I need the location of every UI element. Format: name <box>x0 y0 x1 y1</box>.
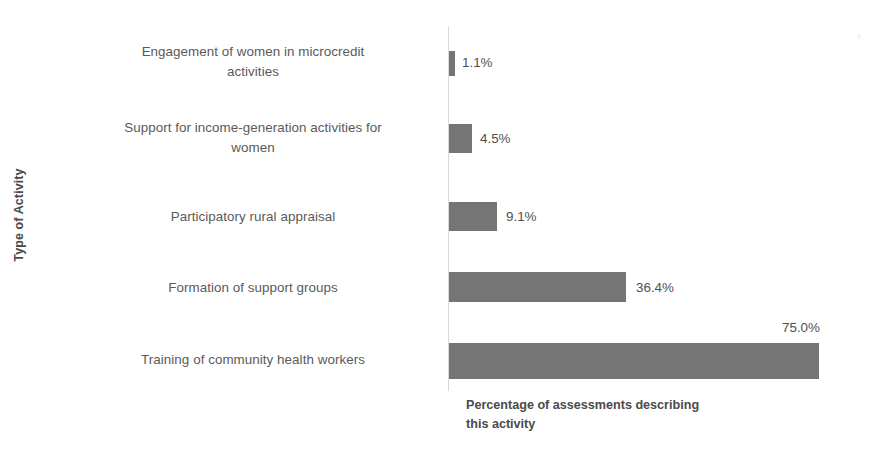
bar-value-label: 1.1% <box>462 55 493 71</box>
bar-value-label: 9.1% <box>506 209 537 225</box>
category-label-line1: Training of community health workers <box>58 350 448 370</box>
category-label-line1: Support for income-generation activities… <box>58 118 448 138</box>
category-label-line1: Formation of support groups <box>58 278 448 298</box>
bar-segment <box>449 272 626 302</box>
category-label: Support for income-generation activities… <box>58 118 448 158</box>
category-label-line2: activities <box>58 62 448 82</box>
category-label: Engagement of women in microcredit activ… <box>58 42 448 82</box>
category-label: Formation of support groups <box>58 278 448 298</box>
bar-segment <box>449 51 455 76</box>
bar-segment <box>449 343 819 379</box>
bar-segment <box>449 124 472 153</box>
bar-chart-figure: Type of Activity Engagement of women in … <box>0 0 888 463</box>
x-axis-title-line2: this activity <box>466 415 766 434</box>
x-axis-title: Percentage of assessments describing thi… <box>466 396 766 434</box>
category-label: Participatory rural appraisal <box>58 207 448 227</box>
bar-value-label: 75.0% <box>782 320 820 336</box>
category-label: Training of community health workers <box>58 350 448 370</box>
category-label-line2: women <box>58 138 448 158</box>
category-label-line1: Participatory rural appraisal <box>58 207 448 227</box>
plot-area: Engagement of women in microcredit activ… <box>0 0 888 463</box>
bar-value-label: 4.5% <box>480 131 511 147</box>
x-axis-title-line1: Percentage of assessments describing <box>466 396 766 415</box>
bar-segment <box>449 202 497 231</box>
bar-value-label: 36.4% <box>636 280 674 296</box>
category-label-line1: Engagement of women in microcredit <box>58 42 448 62</box>
